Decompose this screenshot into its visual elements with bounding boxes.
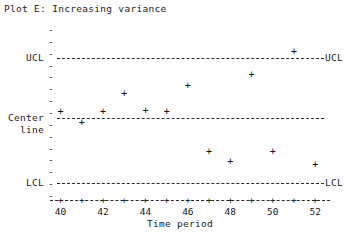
x-axis-tick-marker: + [249, 195, 255, 205]
x-axis-tick-marker: + [206, 195, 212, 205]
page-title: Plot E: Increasing variance [4, 3, 167, 14]
lcl-label-right: LCL [325, 177, 343, 188]
y-axis-tick: - [48, 37, 54, 47]
x-axis-tick-label: 48 [225, 207, 236, 217]
x-axis-tick-label: 50 [267, 207, 278, 217]
x-axis-tick-label: 46 [182, 207, 193, 217]
x-axis-tick-marker: + [143, 195, 149, 205]
data-point-marker: + [121, 89, 127, 99]
x-axis-tick-marker: + [312, 195, 318, 205]
x-axis-tick-marker: + [100, 195, 106, 205]
y-axis-tick: - [48, 108, 54, 118]
data-point-marker: + [185, 81, 191, 91]
ucl-label-left: UCL [0, 52, 44, 63]
y-axis-tick: - [48, 179, 54, 189]
x-axis-tick-marker: + [185, 195, 191, 205]
x-axis-tick-marker: + [227, 195, 233, 205]
data-point-marker: + [227, 157, 233, 167]
data-point-marker: + [270, 147, 276, 157]
x-axis-tick-label: 42 [97, 207, 108, 217]
x-axis-tick-label: 40 [55, 207, 66, 217]
y-axis-tick: - [48, 96, 54, 106]
y-axis-tick: - [48, 49, 54, 59]
y-axis-tick: - [48, 144, 54, 154]
x-axis-tick-marker: + [291, 195, 297, 205]
y-axis-tick: - [48, 132, 54, 142]
data-point-marker: + [291, 47, 297, 57]
x-axis-title: Time period [147, 218, 213, 229]
control-chart: Plot E: Increasing variance UCL Center l… [0, 0, 347, 232]
lcl-label-left: LCL [0, 177, 44, 188]
ucl-label-right: UCL [325, 52, 343, 63]
x-axis-tick-marker: + [58, 195, 64, 205]
y-axis-tick: - [48, 191, 54, 201]
x-axis-tick-marker: + [79, 195, 85, 205]
data-point-marker: + [248, 70, 254, 80]
y-axis-tick: - [48, 167, 54, 177]
data-point-marker: + [100, 107, 106, 117]
data-point-marker: + [79, 118, 85, 128]
center-line-label-left-line1: Center [0, 112, 44, 123]
y-axis-tick: - [48, 84, 54, 94]
x-axis-tick-marker: + [164, 195, 170, 205]
ucl-line [57, 58, 324, 59]
center-line-label-left-line2: line [0, 124, 44, 135]
y-axis-tick: - [48, 155, 54, 165]
y-axis-tick: - [48, 61, 54, 71]
center-line [57, 118, 324, 119]
y-axis-tick: - [48, 72, 54, 82]
x-axis-tick-marker: + [270, 195, 276, 205]
y-axis-tick: - [48, 25, 54, 35]
data-point-marker: + [142, 106, 148, 116]
y-axis-tick: - [48, 120, 54, 130]
data-point-marker: + [58, 107, 64, 117]
data-point-marker: + [312, 160, 318, 170]
data-point-marker: + [206, 147, 212, 157]
x-axis-tick-label: 44 [140, 207, 151, 217]
data-point-marker: + [164, 107, 170, 117]
lcl-line [57, 183, 324, 184]
x-axis-tick-marker: + [121, 195, 127, 205]
x-axis-tick-label: 52 [309, 207, 320, 217]
